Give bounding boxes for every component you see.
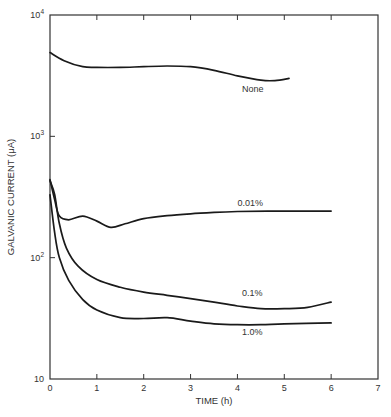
- y-tick-label: 102: [30, 251, 44, 263]
- x-tick-label: 0: [47, 383, 52, 393]
- chart: 01234567 10102103104 None0.01%0.1%1.0% T…: [0, 0, 391, 417]
- y-tick-label: 104: [30, 8, 44, 20]
- series-line-none: [50, 53, 289, 81]
- y-tick-label: 10: [34, 374, 44, 384]
- x-tick-label: 1: [94, 383, 99, 393]
- series-label-1-0: 1.0%: [242, 327, 263, 337]
- x-tick-label: 7: [375, 383, 380, 393]
- series-line-0-01: [50, 180, 331, 228]
- series-label-0-01: 0.01%: [237, 198, 263, 208]
- x-axis-ticks: 01234567: [47, 15, 380, 393]
- x-axis-title: TIME (h): [196, 395, 233, 406]
- series-line-0-1: [50, 181, 331, 309]
- x-tick-label: 2: [141, 383, 146, 393]
- series-label-0-1: 0.1%: [242, 288, 263, 298]
- series-label-none: None: [242, 84, 264, 94]
- y-axis-title: GALVANIC CURRENT (μA): [5, 139, 16, 255]
- x-tick-label: 6: [329, 383, 334, 393]
- x-tick-label: 3: [188, 383, 193, 393]
- y-tick-label: 103: [30, 129, 44, 141]
- x-tick-label: 4: [235, 383, 240, 393]
- y-axis-ticks: 10102103104: [30, 8, 55, 384]
- series-lines: [50, 53, 331, 325]
- x-tick-label: 5: [282, 383, 287, 393]
